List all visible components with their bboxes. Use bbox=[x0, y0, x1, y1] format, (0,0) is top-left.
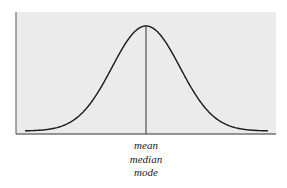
median-label: median bbox=[96, 153, 196, 167]
mode-label: mode bbox=[96, 166, 196, 180]
mean-label: mean bbox=[96, 139, 196, 153]
center-labels: mean median mode bbox=[96, 139, 196, 180]
